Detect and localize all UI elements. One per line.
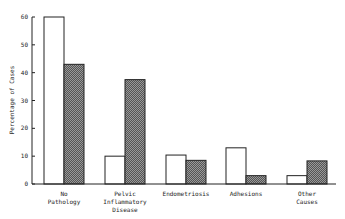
y-tick-label: 40 bbox=[21, 69, 29, 76]
y-tick-label: 50 bbox=[21, 41, 29, 48]
bar-hatched bbox=[307, 161, 327, 184]
bar-hatched bbox=[125, 80, 145, 184]
category-label: Adhesions bbox=[230, 190, 263, 197]
x-category-labels: NoPathologyPelvicInflammatoryDiseaseEndo… bbox=[48, 190, 318, 213]
bars-group bbox=[44, 17, 327, 184]
y-tick-label: 60 bbox=[21, 13, 29, 20]
y-tick-label: 10 bbox=[21, 152, 29, 159]
category-label: Endometriosis bbox=[163, 190, 210, 197]
category-label: Disease bbox=[112, 206, 138, 213]
y-axis-label: Percentage of Cases bbox=[8, 65, 16, 134]
bar-open bbox=[287, 176, 307, 184]
bar-hatched bbox=[186, 160, 206, 184]
category-label: Pathology bbox=[48, 198, 81, 206]
category-label: No bbox=[60, 190, 68, 197]
bar-open bbox=[166, 155, 186, 184]
bar-open bbox=[44, 17, 64, 184]
y-tick-label: 0 bbox=[24, 180, 28, 187]
category-label: Other bbox=[298, 190, 316, 197]
bar-open bbox=[226, 148, 246, 184]
bar-open bbox=[105, 156, 125, 184]
category-label: Causes bbox=[296, 198, 318, 205]
category-label: Pelvic bbox=[114, 190, 136, 197]
y-tick-label: 20 bbox=[21, 124, 29, 131]
category-label: Inflammatory bbox=[103, 198, 147, 206]
y-ticks: 0102030405060 bbox=[21, 13, 35, 187]
bar-hatched bbox=[246, 176, 266, 184]
y-tick-label: 30 bbox=[21, 97, 29, 104]
bar-hatched bbox=[64, 64, 84, 184]
bar-chart: 0102030405060 NoPathologyPelvicInflammat… bbox=[0, 0, 345, 219]
